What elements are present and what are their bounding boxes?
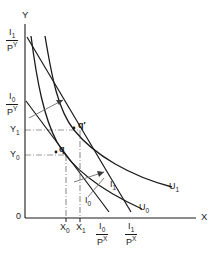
i0-py-denominator-sup: Y — [13, 105, 17, 112]
curve-label-i0: I0 — [85, 196, 91, 207]
point-label-q-prime: q′ — [78, 121, 86, 130]
i0-py-numerator-sub: 0 — [12, 96, 16, 103]
indifference-curve-u1 — [45, 36, 172, 187]
i0-label-sub: 0 — [88, 200, 92, 207]
guide-lines — [25, 130, 80, 218]
x0-sub: 0 — [66, 227, 70, 234]
i1-py-numerator-sub: 1 — [12, 32, 16, 39]
figure-canvas — [0, 0, 217, 258]
i1-px-denominator-sup: X — [132, 235, 136, 242]
i0-px-numerator-sub: 0 — [102, 226, 106, 233]
y-value-y0: Y0 — [10, 150, 20, 161]
indifference-curve-figure: Y X 0 I1 PY I0 PY Y1 Y0 X0 X1 — [0, 0, 217, 258]
x-value-x0: X0 — [60, 223, 70, 234]
point-label-q: q — [59, 145, 65, 154]
curve-label-u0: U0 — [139, 203, 149, 214]
i0-px-denominator-sup: X — [103, 235, 107, 242]
u0-label-sub: 0 — [146, 207, 150, 214]
y1-sub: 1 — [16, 129, 20, 136]
i1-px-numerator-sub: 1 — [131, 226, 135, 233]
y-value-y1: Y1 — [10, 125, 20, 136]
leader-i1-lower — [74, 171, 104, 182]
y-axis-label: Y — [22, 10, 28, 20]
i1-py-denominator-sup: Y — [13, 41, 17, 48]
curve-label-u1: U1 — [169, 182, 179, 193]
indifference-curve-u0 — [31, 36, 142, 209]
u1-label-sub: 1 — [176, 186, 180, 193]
y-intercept-i0-py: I0 PY — [6, 92, 18, 117]
x-intercept-i1-px: I1 PX — [125, 222, 137, 247]
origin-label: 0 — [16, 212, 21, 221]
y-intercept-i1-py: I1 PY — [6, 28, 18, 53]
point-q-prime-marker — [73, 127, 76, 130]
x-axis-label: X — [201, 212, 207, 222]
y0-sub: 0 — [16, 154, 20, 161]
x-value-x1: X1 — [76, 223, 86, 234]
curve-label-i1: I1 — [110, 180, 116, 191]
x1-sub: 1 — [82, 227, 86, 234]
i1-label-sub: 1 — [113, 184, 117, 191]
point-q-marker — [55, 151, 58, 154]
x-intercept-i0-px: I0 PX — [96, 222, 108, 247]
